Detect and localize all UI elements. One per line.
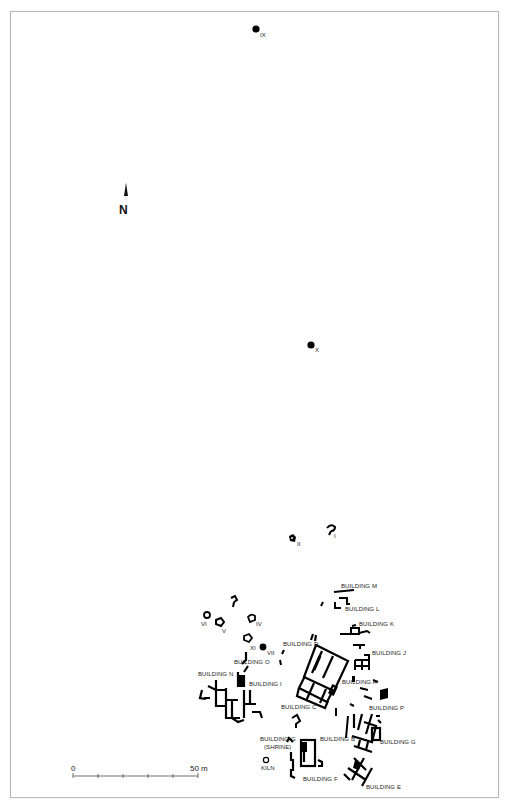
feature-small-mark bbox=[231, 596, 237, 607]
building-p-shape[interactable] bbox=[380, 688, 388, 700]
building-d-accent bbox=[314, 656, 320, 670]
feature-v-label: V bbox=[222, 628, 226, 634]
feature-iv-shape[interactable] bbox=[248, 615, 255, 622]
building-m-label: BUILDING M bbox=[341, 583, 377, 589]
building-c-label: BUILDING C bbox=[281, 704, 316, 710]
feature-xi-label: XI bbox=[250, 645, 256, 651]
kiln-label: KILN bbox=[261, 765, 275, 771]
building-g-shrine-label: BUILDING G bbox=[260, 736, 296, 742]
building-c-small bbox=[292, 715, 300, 728]
building-o-shape[interactable] bbox=[280, 650, 284, 665]
feature-vi-label: VI bbox=[201, 621, 207, 627]
kiln-shape[interactable] bbox=[263, 757, 268, 762]
building-j-shape[interactable] bbox=[353, 645, 369, 670]
point-vii-marker[interactable] bbox=[260, 644, 267, 651]
building-j-label: BUILDING J bbox=[372, 650, 406, 656]
feature-v-shape[interactable] bbox=[216, 618, 224, 626]
building-e-label: BUILDING E bbox=[366, 784, 401, 790]
feature-vi-shape[interactable] bbox=[204, 612, 210, 618]
scale-end-label: 50 m bbox=[190, 764, 208, 773]
scale-bar bbox=[73, 773, 198, 778]
point-x-marker[interactable] bbox=[307, 341, 314, 348]
building-p-label: BUILDING P bbox=[369, 705, 404, 711]
building-l-label: BUILDING L bbox=[345, 606, 379, 612]
building-i-label: BUILDING I bbox=[249, 681, 282, 687]
feature-iv-label: IV bbox=[256, 621, 262, 627]
feature-i-label: I bbox=[334, 533, 336, 539]
building-b-label: BUILDING B bbox=[320, 736, 355, 742]
point-x-label: X bbox=[315, 347, 319, 353]
point-vii-label: VII bbox=[267, 650, 275, 656]
building-k-label: BUILDING K bbox=[359, 621, 394, 627]
feature-ii-label: II bbox=[297, 541, 301, 547]
north-label: N bbox=[119, 203, 128, 217]
scale-start-label: 0 bbox=[71, 764, 75, 773]
point-ix-label: IX bbox=[260, 32, 266, 38]
building-n-label: BUILDING N bbox=[198, 671, 233, 677]
building-d-label: BUILDING D bbox=[283, 641, 318, 647]
north-arrow-icon bbox=[124, 183, 128, 200]
building-g-label: BUILDING G bbox=[380, 739, 416, 745]
building-g-shrine-note: (SHRINE) bbox=[264, 744, 291, 750]
feature-xi-shape[interactable] bbox=[244, 634, 252, 642]
building-a-label: BUILDING A bbox=[342, 679, 377, 685]
building-b-shape[interactable] bbox=[352, 714, 381, 752]
building-o-label: BUILDING O bbox=[234, 659, 270, 665]
point-ix-marker[interactable] bbox=[252, 25, 259, 32]
building-f-label: BUILDING F bbox=[303, 776, 338, 782]
